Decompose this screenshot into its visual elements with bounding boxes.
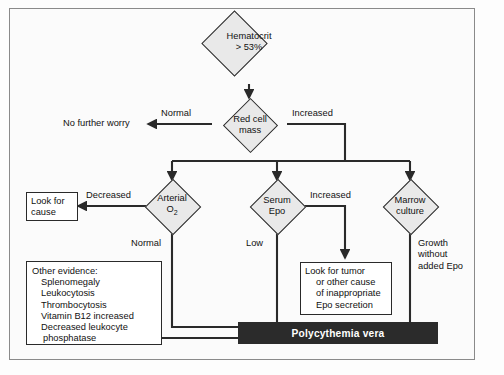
other-evidence-item-4: Decreased leukocyte — [32, 322, 156, 333]
outcome-no-further-worry: No further worry — [63, 118, 130, 129]
decision-hematocrit-label: Hematocrit > 53% — [205, 24, 293, 60]
look-for-tumor-line1: Look for tumor — [305, 266, 387, 277]
other-evidence-item-0: Splenomegaly — [32, 277, 156, 288]
edge-label-low-epo: Low — [246, 238, 263, 249]
figure-page: Hematocrit > 53% Red cell mass Normal In… — [0, 0, 504, 375]
marrow-culture-line2: culture — [396, 206, 424, 217]
other-evidence-item-1: Leukocytosis — [32, 288, 156, 299]
serum-epo-line2: Epo — [269, 206, 286, 217]
edge-label-growth-marrow: Growth without added Epo — [418, 238, 463, 272]
look-for-tumor-line4: Epo secretion — [305, 300, 387, 311]
red-cell-mass-line1: Red cell — [233, 114, 267, 125]
look-for-tumor-line3: of inappropriate — [305, 288, 387, 299]
other-evidence-heading: Other evidence: — [32, 266, 156, 277]
box-look-for-tumor: Look for tumor or other cause of inappro… — [300, 262, 392, 315]
other-evidence-item-2: Thrombocytosis — [32, 300, 156, 311]
hematocrit-line1: Hematocrit — [227, 31, 272, 42]
other-evidence-item-5: phosphatase — [32, 333, 156, 344]
look-for-tumor-line2: or other cause — [305, 277, 387, 288]
terminal-label: Polycythemia vera — [292, 328, 385, 339]
other-evidence-item-3: Vitamin B12 increased — [32, 311, 156, 322]
marrow-culture-line1: Marrow — [395, 195, 426, 206]
edge-label-decreased-o2: Decreased — [86, 190, 131, 201]
look-for-cause-line1: Look for — [31, 196, 73, 207]
edge-label-normal-o2: Normal — [131, 238, 161, 249]
decision-marrow-culture-label: Marrow culture — [382, 189, 438, 223]
edge-label-normal-rcm: Normal — [161, 108, 191, 119]
look-for-cause-line2: cause — [31, 207, 73, 218]
arterial-o2-subscript: 2 — [174, 209, 178, 216]
growth-marrow-line3: added Epo — [418, 261, 463, 272]
edge-label-increased-rcm: Increased — [292, 108, 333, 119]
box-look-for-cause: Look for cause — [26, 192, 78, 221]
arterial-o2-line2: O2 — [166, 204, 177, 218]
decision-red-cell-mass-label: Red cell mass — [215, 108, 285, 141]
box-other-evidence: Other evidence: Splenomegaly Leukocytosi… — [26, 261, 162, 345]
arterial-o2-line1: Arterial — [157, 193, 186, 204]
terminal-polycythemia-vera: Polycythemia vera — [238, 322, 438, 344]
edge-label-increased-epo: Increased — [310, 190, 351, 201]
serum-epo-line1: Serum — [263, 195, 290, 206]
hematocrit-line2: > 53% — [236, 42, 263, 53]
growth-marrow-line1: Growth — [418, 238, 463, 249]
growth-marrow-line2: without — [418, 249, 463, 260]
red-cell-mass-line2: mass — [239, 125, 261, 136]
decision-serum-epo-label: Serum Epo — [250, 189, 304, 223]
decision-arterial-o2-label: Arterial O2 — [142, 189, 202, 223]
